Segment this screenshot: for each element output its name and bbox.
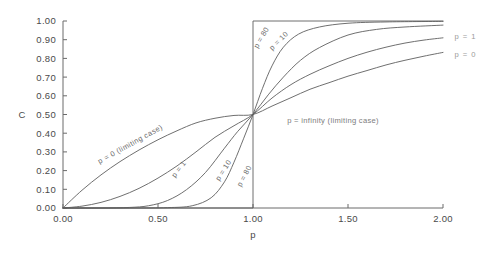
x-tick-label: 1.00 [243,213,263,224]
y-tick-label: 0.50 [36,109,56,120]
y-tick-label: 0.80 [36,53,56,64]
y-tick-label: 0.30 [36,146,56,157]
chart-canvas: 0.000.100.200.300.400.500.600.700.800.90… [0,0,498,256]
y-tick-label: 0.10 [36,184,56,195]
x-tick-label: 0.50 [148,213,168,224]
curve-label: p = 1 [170,159,189,179]
y-tick-label: 0.70 [36,72,56,83]
curve-label: p = 80 [235,164,254,189]
curve-labels-group: p = 0 (limiting case)p = 1p = 10p = 80p … [96,25,476,188]
curve-label: p = 10 [267,29,290,52]
data-curve [63,21,443,208]
x-tick-label: 2.00 [433,213,453,224]
curves-group [63,21,443,208]
curve-label: p = infinity (limiting case) [287,116,379,125]
y-tick-label: 0.20 [36,165,56,176]
y-axis-title: C [19,109,26,120]
y-tick-label: 1.00 [36,15,56,26]
x-tick-label: 0.00 [53,213,73,224]
consolidation-curve-figure: 0.000.100.200.300.400.500.600.700.800.90… [0,0,498,256]
curve-label: p = 0 (limiting case) [96,123,164,166]
x-tick-label: 1.50 [338,213,358,224]
curve-label: p = 0 [454,50,476,59]
y-tick-label: 0.40 [36,128,56,139]
curve-label: p = 1 [454,32,476,41]
x-axis-title: p [250,229,255,240]
y-tick-label: 0.60 [36,90,56,101]
y-axis-ticks: 0.000.100.200.300.400.500.600.700.800.90… [36,15,67,213]
y-tick-label: 0.90 [36,34,56,45]
y-tick-label: 0.00 [36,202,56,213]
